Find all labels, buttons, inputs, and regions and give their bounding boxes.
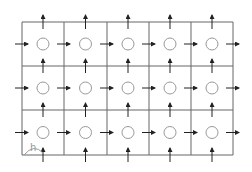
cell-center-circle: [164, 127, 176, 139]
staggered-grid-diagram: h: [0, 0, 252, 172]
cell-center-circle: [37, 127, 49, 139]
cell-center-circle: [164, 82, 176, 94]
cell-center-circle: [164, 38, 176, 50]
cell-center-circle: [80, 38, 92, 50]
cell-center-circle: [122, 127, 134, 139]
cell-center-circle: [122, 82, 134, 94]
cell-center-circle: [80, 82, 92, 94]
h-label: h: [30, 142, 36, 153]
cell-center-circle: [206, 82, 218, 94]
cell-center-circle: [80, 127, 92, 139]
cell-center-circle: [37, 38, 49, 50]
cell-center-circle: [206, 38, 218, 50]
h-annotation: h: [24, 142, 43, 155]
cell-center-circle: [206, 127, 218, 139]
grid-lines: [22, 22, 233, 155]
cell-center-circle: [37, 82, 49, 94]
cell-center-circle: [122, 38, 134, 50]
